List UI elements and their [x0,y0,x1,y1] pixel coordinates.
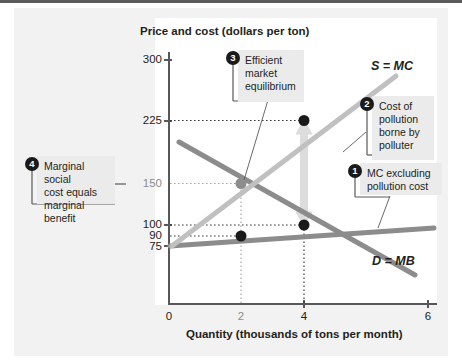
y-tick-label-300: 300 [128,53,162,65]
callout-box-1: MC excluding pollution cost [360,163,442,195]
callout-4-line-1: Marginal social [44,160,109,186]
x-tick-label-2: 2 [231,310,251,322]
y-tick-75 [164,245,172,247]
callout-3-line-1: Efficient [245,54,298,67]
callout-2-line-2: pollution [379,113,428,126]
callout-3-line-3: equilibrium [245,80,298,93]
top-rule-divider [0,0,462,3]
x-tick-4 [303,300,305,308]
callout-badge-4[interactable]: 4 [25,157,39,171]
x-axis-title: Quantity (thousands of tons per month) [186,328,403,340]
callout-badge-1[interactable]: 1 [348,164,362,178]
y-tick-225 [164,120,172,122]
callout-1-line-1: MC excluding [367,167,436,180]
callout-box-4: Marginal social cost equals marginal ben… [37,156,115,204]
callout-badge-3[interactable]: 3 [226,51,240,65]
callout-3-line-2: market [245,67,298,80]
y-axis-line [168,52,170,305]
y-tick-label-75: 75 [128,240,162,252]
callout-2-line-3: borne by [379,126,428,139]
callout-box-3: Efficient market equilibrium [238,50,304,102]
callout-box-2: Cost of pollution borne by polluter [372,96,434,160]
figure-root: Price and cost (dollars per ton) Quantit… [0,0,462,362]
callout-1-line-2: pollution cost [367,180,436,193]
x-tick-label-4: 4 [294,310,314,322]
curve-label-supply: S = MC [371,59,413,73]
y-tick-label-150: 150 [128,177,162,189]
y-tick-100 [164,224,172,226]
callout-4-line-2: cost equals [44,186,109,199]
y-axis-title: Price and cost (dollars per ton) [140,25,309,37]
callout-2-line-1: Cost of [379,100,428,113]
x-tick-label-6: 6 [418,310,438,322]
x-tick-6 [427,300,429,308]
callout-2-line-4: polluter [379,139,428,152]
y-tick-300 [164,59,172,61]
x-tick-label-0: 0 [159,310,179,322]
callout-4-line-3: marginal benefit [44,199,109,225]
curve-label-demand: D = MB [372,254,415,268]
callout-badge-2[interactable]: 2 [360,97,374,111]
y-tick-label-225: 225 [128,114,162,126]
